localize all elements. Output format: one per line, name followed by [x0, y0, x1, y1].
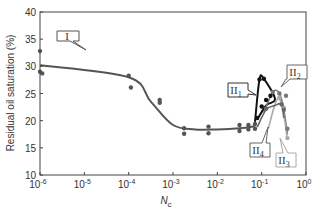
data-point-II1: [260, 104, 264, 108]
data-point-II1: [264, 98, 268, 102]
annotation-II4: II4: [250, 127, 270, 159]
data-point-II2: [271, 90, 275, 94]
data-point-I: [182, 126, 186, 130]
y-tick-label: 25: [25, 89, 37, 100]
x-tick-label: 100: [296, 178, 311, 190]
data-point-II2: [284, 94, 288, 98]
data-point-I: [237, 129, 241, 133]
data-point-II1: [262, 77, 266, 81]
data-point-I: [40, 71, 44, 75]
annotation-I: I: [57, 30, 86, 50]
x-tick-label: 10-1: [251, 178, 268, 190]
series-curve-I: [40, 65, 255, 130]
data-point-I: [246, 123, 250, 127]
data-point-II4: [282, 108, 286, 112]
x-tick-label: 10-5: [74, 178, 91, 190]
y-tick-label: 20: [25, 116, 37, 127]
y-tick-label: 15: [25, 143, 37, 154]
data-point-I: [206, 131, 210, 135]
data-point-I: [253, 122, 257, 126]
data-point-I: [129, 85, 133, 89]
data-point-I: [127, 73, 131, 77]
data-point-II1: [255, 116, 259, 120]
data-point-I: [246, 127, 250, 131]
annotation-label-I: I: [65, 30, 69, 42]
y-tick-label: 35: [25, 34, 37, 45]
data-point-I: [206, 124, 210, 128]
x-axis-title: Nc: [160, 195, 171, 209]
data-point-II4: [279, 102, 283, 106]
data-point-I: [182, 132, 186, 136]
annotation-II3: II3: [276, 138, 296, 169]
data-point-II4: [264, 107, 268, 111]
y-axis-title: Residual oil saturation (%): [5, 35, 16, 152]
data-point-II2: [277, 91, 281, 95]
x-tick-label: 10-6: [29, 178, 46, 190]
plot-area: 10152025303540 10-610-510-410-310-210-11…: [0, 0, 323, 211]
data-point-I: [158, 101, 162, 105]
chart: 10152025303540 10-610-510-410-310-210-11…: [0, 0, 323, 211]
x-tick-label: 10-3: [162, 178, 179, 190]
data-point-II3: [285, 136, 289, 140]
data-point-II1: [268, 94, 272, 98]
callout-box-I: [57, 31, 86, 50]
y-tick-label: 30: [25, 61, 37, 72]
y-tick-label: 40: [25, 7, 37, 18]
data-point-I: [253, 127, 257, 131]
data-point-II3: [277, 96, 281, 100]
data-point-II2: [285, 127, 289, 131]
annotation-II2: II2: [281, 65, 307, 87]
x-tick-label: 10-4: [118, 178, 135, 190]
x-tick-label: 10-2: [207, 178, 224, 190]
annotation-II1: II1: [228, 83, 256, 99]
data-point-II1: [257, 77, 261, 81]
data-point-I: [237, 123, 241, 127]
